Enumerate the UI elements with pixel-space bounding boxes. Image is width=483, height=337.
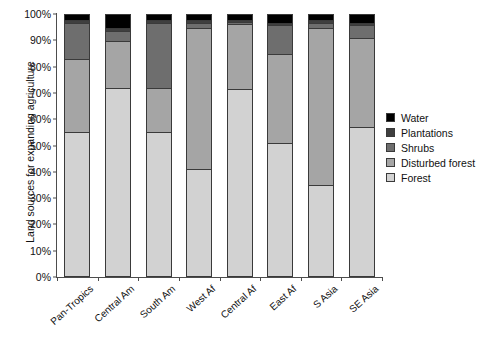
x-tick-label: Central Am (92, 283, 136, 324)
x-tick-label: East Af (268, 283, 299, 312)
legend-label: Water (401, 112, 429, 124)
x-tick-mark (179, 277, 180, 281)
x-tick-mark (301, 277, 302, 281)
bar-segment-shrubs (147, 23, 171, 88)
bar-segment-forest (268, 143, 292, 276)
bar-segment-water (268, 15, 292, 23)
bar-segment-disturbed-forest (187, 28, 211, 169)
bar-segment-shrubs (268, 25, 292, 54)
legend-item[interactable]: Disturbed forest (386, 155, 475, 170)
chart-legend: WaterPlantationsShrubsDisturbed forestFo… (386, 110, 475, 185)
x-tick-mark (382, 277, 383, 281)
legend-swatch-icon (386, 158, 395, 167)
stacked-bar[interactable] (186, 14, 212, 277)
y-tick-mark (53, 145, 57, 146)
y-tick-mark (53, 92, 57, 93)
x-tick-mark (220, 277, 221, 281)
legend-label: Shrubs (401, 142, 434, 154)
y-tick-mark (53, 66, 57, 67)
bar-segment-disturbed-forest (147, 88, 171, 132)
bar-segment-disturbed-forest (309, 28, 333, 185)
legend-swatch-icon (386, 113, 395, 122)
x-tick-mark (260, 277, 261, 281)
x-tick-label: Central Af (218, 283, 258, 321)
plot-area: 0%10%20%30%40%50%60%70%80%90%100% (57, 14, 382, 277)
legend-item[interactable]: Forest (386, 170, 475, 185)
legend-item[interactable]: Water (386, 110, 475, 125)
legend-item[interactable]: Shrubs (386, 140, 475, 155)
bar-segment-disturbed-forest (106, 41, 130, 88)
bar-segment-water (106, 15, 130, 28)
stacked-bar[interactable] (146, 14, 172, 277)
bar-segment-disturbed-forest (65, 59, 89, 132)
legend-label: Disturbed forest (401, 157, 475, 169)
bar-segment-forest (350, 127, 374, 276)
x-tick-label: South Am (137, 283, 177, 320)
legend-label: Forest (401, 172, 431, 184)
bar-segment-forest (309, 185, 333, 276)
y-tick-mark (53, 119, 57, 120)
x-tick-label: S Asia (311, 283, 339, 310)
y-tick-mark (53, 250, 57, 251)
bar-segment-disturbed-forest (228, 24, 252, 89)
x-tick-label: Pan-Tropics (49, 283, 96, 327)
legend-swatch-icon (386, 128, 395, 137)
legend-swatch-icon (386, 173, 395, 182)
x-tick-mark (138, 277, 139, 281)
bar-segment-shrubs (65, 23, 89, 60)
y-tick-mark (53, 198, 57, 199)
y-tick-mark (53, 224, 57, 225)
x-tick-mark (57, 277, 58, 281)
legend-item[interactable]: Plantations (386, 125, 475, 140)
stacked-bar[interactable] (267, 14, 293, 277)
x-tick-label: SE Asia (347, 283, 380, 315)
legend-label: Plantations (401, 127, 453, 139)
bar-segment-forest (147, 132, 171, 276)
bar-segment-forest (187, 169, 211, 276)
bar-segment-forest (65, 132, 89, 276)
bar-segment-forest (106, 88, 130, 276)
bar-segment-water (350, 15, 374, 23)
bar-segment-forest (228, 89, 252, 276)
y-tick-mark (53, 14, 57, 15)
x-tick-mark (341, 277, 342, 281)
stacked-bar[interactable] (64, 14, 90, 277)
bar-segment-shrubs (106, 31, 130, 41)
x-tick-label: West Af (185, 283, 218, 314)
bar-segment-disturbed-forest (268, 54, 292, 143)
y-tick-mark (53, 171, 57, 172)
stacked-bar[interactable] (308, 14, 334, 277)
y-tick-mark (53, 40, 57, 41)
stacked-bar-chart-figure: Land sources for expanding agriculture 0… (0, 0, 483, 337)
bar-segment-shrubs (350, 25, 374, 38)
legend-swatch-icon (386, 143, 395, 152)
stacked-bar[interactable] (349, 14, 375, 277)
x-tick-mark (98, 277, 99, 281)
stacked-bar[interactable] (227, 14, 253, 277)
stacked-bar[interactable] (105, 14, 131, 277)
bar-segment-disturbed-forest (350, 38, 374, 127)
